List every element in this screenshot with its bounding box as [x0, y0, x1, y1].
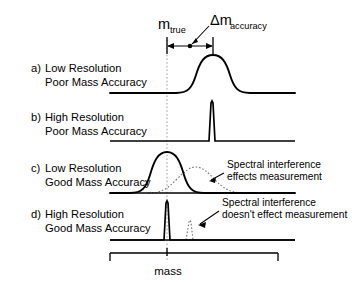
annotation-c-line2: effects measurement: [227, 171, 322, 182]
delta-m-accuracy-label: Δm accuracy: [210, 12, 267, 31]
mass-axis: mass: [110, 248, 278, 277]
m-true-label: m true: [158, 16, 186, 35]
accuracy-span: [167, 37, 213, 54]
panel-b-line1: High Resolution: [45, 111, 124, 123]
panel-b-line2: Poor Mass Accuracy: [45, 125, 147, 137]
panel-d-interference-trace: [186, 220, 193, 240]
panel-a-line2: Poor Mass Accuracy: [45, 76, 147, 88]
annotation-c-line1: Spectral interference: [227, 159, 321, 170]
panel-d-line1: High Resolution: [45, 208, 124, 220]
annotation-d-line1: Spectral interference: [222, 197, 316, 208]
true-mass-dot: [188, 44, 193, 49]
mass-spectrometry-figure: m true Δm accuracy a) Low Resolution Poo…: [0, 0, 352, 283]
delta-m-subscript: accuracy: [230, 21, 267, 31]
span-arrowhead-left: [167, 43, 174, 49]
annotation-d-leader: [200, 211, 219, 224]
panel-d-tag: d): [31, 208, 41, 220]
m-true-base: m: [158, 16, 170, 32]
panel-c-line2: Good Mass Accuracy: [45, 176, 151, 188]
delta-m-leader: [192, 26, 209, 44]
panel-b-tag: b): [31, 111, 41, 123]
mass-axis-label: mass: [154, 265, 182, 277]
annotation-c-leader: [211, 173, 224, 180]
panel-c-tag: c): [31, 162, 41, 174]
panel-b: b) High Resolution Poor Mass Accuracy: [31, 101, 295, 141]
annotation-d-line2: doesn't effect measurement: [222, 209, 347, 220]
figure-canvas: m true Δm accuracy a) Low Resolution Poo…: [0, 0, 352, 283]
annotation-c: Spectral interference effects measuremen…: [209, 159, 322, 183]
panel-c-line1: Low Resolution: [45, 162, 122, 174]
panel-a-line1: Low Resolution: [45, 62, 122, 74]
annotation-d: Spectral interference doesn't effect mea…: [198, 197, 347, 228]
span-arrowhead-right: [206, 43, 213, 49]
panel-a: a) Low Resolution Poor Mass Accuracy: [31, 55, 295, 93]
delta-m-base: Δm: [210, 12, 232, 28]
panel-a-tag: a): [31, 62, 41, 74]
m-true-subscript: true: [170, 25, 186, 35]
panel-d-line2: Good Mass Accuracy: [45, 222, 151, 234]
